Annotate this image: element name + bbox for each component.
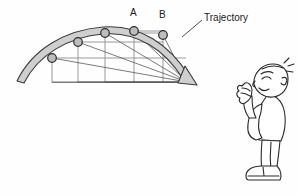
ball-marker-a: [130, 27, 139, 36]
label-trajectory: Trajectory: [204, 12, 248, 23]
ball-marker-b: [159, 31, 168, 40]
trajectory-leader-line: [182, 20, 202, 37]
observer-head: [254, 64, 288, 97]
label-point-b: B: [159, 9, 166, 20]
ball-marker: [74, 38, 83, 47]
ball-marker: [101, 29, 110, 38]
observer-torso: [257, 94, 285, 141]
label-point-a: A: [130, 7, 137, 18]
observer-person-icon: [237, 58, 294, 180]
diagram-canvas: A B Trajectory: [0, 0, 297, 195]
ball-marker: [48, 54, 57, 63]
diagram-svg: [0, 0, 297, 195]
